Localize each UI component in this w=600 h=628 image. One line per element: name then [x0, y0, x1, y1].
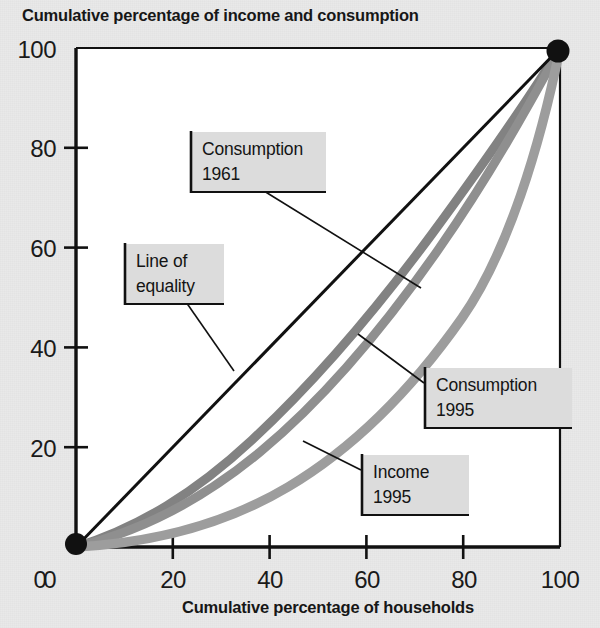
origin-marker: [65, 533, 87, 555]
x-tick-label-80: 80: [451, 566, 477, 593]
x-tick-label-0: 0: [34, 566, 47, 593]
callout-line-of-equality: Line of equality: [124, 243, 224, 305]
y-tick-label-80: 80: [30, 135, 56, 162]
x-tick-label-20: 20: [160, 566, 186, 593]
callout-line-of-equality-line2: equality: [136, 276, 195, 296]
x-tick-label-40: 40: [257, 566, 283, 593]
callout-line-of-equality-line1: Line of: [136, 251, 187, 271]
callout-consumption-1961: Consumption 1961: [190, 131, 326, 193]
x-axis-tick-labels: 0 20 40 60 80 100: [34, 566, 580, 593]
y-tick-label-100: 100: [17, 36, 56, 63]
callout-income-1995-line2: 1995: [373, 487, 411, 507]
callout-income-1995-line1: Income: [373, 462, 429, 482]
y-axis-tick-labels: 100 80 60 40 20 0: [17, 36, 56, 593]
x-tick-label-100: 100: [541, 566, 580, 593]
callout-consumption-1961-line1: Consumption: [202, 139, 303, 159]
y-tick-label-40: 40: [30, 335, 56, 362]
callout-consumption-1995: Consumption 1995: [424, 367, 572, 429]
callout-consumption-1961-line2: 1961: [202, 164, 240, 184]
lorenz-curve-chart: 100 80 60 40 20 0 0 20 40 60 80 100 Cons…: [0, 0, 600, 628]
y-tick-label-60: 60: [30, 235, 56, 262]
x-tick-label-60: 60: [354, 566, 380, 593]
y-tick-label-20: 20: [30, 435, 56, 462]
callout-income-1995: Income 1995: [361, 454, 469, 516]
callout-consumption-1995-line1: Consumption: [436, 375, 537, 395]
endpoint-marker: [547, 40, 570, 63]
callout-consumption-1995-line2: 1995: [436, 400, 474, 420]
